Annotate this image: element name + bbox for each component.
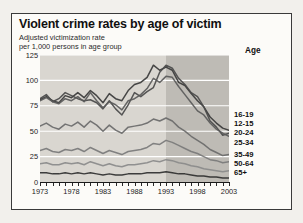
x-axis-tick-mark (185, 183, 186, 186)
series-line-50-64 (40, 160, 229, 172)
chart-subtitle: Adjusted victimization rate per 1,000 pe… (19, 33, 122, 51)
x-axis-tick-mark (172, 183, 173, 186)
y-axis-tick-label: 50 (30, 127, 38, 136)
y-axis-tick-label: 25 (30, 152, 38, 161)
y-axis-tick-label: 0 (34, 178, 38, 187)
scanned-page-background: Violent crime rates by age of victim Adj… (0, 0, 303, 223)
legend: 16-1912-1520-2425-3435-4950-6465+ (234, 110, 290, 177)
y-axis-tick-label: 75 (30, 101, 38, 110)
x-axis-tick-mark (109, 183, 110, 186)
x-axis-tick-mark (210, 183, 211, 186)
series-line-35-49 (40, 140, 229, 162)
x-axis-tick-mark (147, 183, 148, 186)
legend-item-25-34: 25-34 (234, 138, 290, 147)
x-axis-tick-mark (216, 183, 217, 186)
legend-item-12-15: 12-15 (234, 119, 290, 128)
x-axis-tick-mark (141, 183, 142, 186)
series-line-16-19 (40, 65, 229, 130)
page-title: Violent crime rates by age of victim (19, 17, 221, 31)
x-axis-tick-label: 1973 (32, 187, 48, 196)
x-axis-tick-label: 1988 (126, 187, 142, 196)
x-axis-tick-mark (90, 183, 91, 186)
x-axis-tick-mark (72, 183, 73, 186)
legend-item-65+: 65+ (234, 168, 290, 177)
x-axis-tick-mark (59, 183, 60, 186)
x-axis-tick-mark (223, 183, 224, 186)
chart-subtitle-line-1: Adjusted victimization rate (19, 33, 122, 42)
x-axis-tick-mark (128, 183, 129, 186)
x-axis-tick-label: 1993 (158, 187, 174, 196)
x-axis-tick-mark (122, 183, 123, 186)
legend-item-50-64: 50-64 (234, 159, 290, 168)
x-axis-tick-label: 1998 (189, 187, 205, 196)
chart-figure-box: Violent crime rates by age of victim Adj… (11, 13, 292, 210)
x-axis-tick-mark (160, 183, 161, 186)
legend-item-35-49: 35-49 (234, 150, 290, 159)
x-axis-tick-mark (135, 183, 136, 186)
legend-item-16-19: 16-19 (234, 110, 290, 119)
y-axis-tick-label: 100 (26, 76, 38, 85)
x-axis-tick-labels: 1973197819831988199319982003 (12, 187, 272, 199)
x-axis-tick-mark (198, 183, 199, 186)
x-axis-tick-mark (65, 183, 66, 186)
series-lines-svg (40, 55, 229, 182)
y-axis-tick-label: 125 (26, 51, 38, 60)
series-line-65+ (40, 172, 229, 178)
x-axis-tick-mark (229, 183, 230, 186)
x-axis-tick-mark (78, 183, 79, 186)
x-axis-tick-mark (53, 183, 54, 186)
x-axis-tick-mark (179, 183, 180, 186)
x-axis-tick-label: 2003 (221, 187, 237, 196)
x-axis-tick-label: 1978 (63, 187, 79, 196)
x-axis-tick-mark (191, 183, 192, 186)
x-axis-tick-mark (153, 183, 154, 186)
x-axis-tick-mark (46, 183, 47, 186)
x-axis-tick-mark (166, 183, 167, 186)
x-axis-tick-mark (97, 183, 98, 186)
x-axis-tick-mark (84, 183, 85, 186)
x-axis-tick-mark (103, 183, 104, 186)
plot-area (40, 55, 229, 182)
legend-item-20-24: 20-24 (234, 128, 290, 137)
x-axis-tick-mark (116, 183, 117, 186)
x-axis-tick-mark (204, 183, 205, 186)
x-axis-tick-mark (40, 183, 41, 186)
y-axis-tick-labels: 0255075100125 (18, 50, 38, 187)
legend-title: Age (245, 46, 260, 55)
x-axis-tick-label: 1983 (95, 187, 111, 196)
